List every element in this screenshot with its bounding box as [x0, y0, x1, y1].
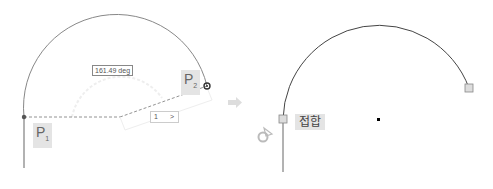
- point-p2-label: P2: [181, 70, 200, 95]
- p1-index: 1: [45, 135, 49, 142]
- p2-index: 2: [193, 82, 197, 89]
- angle-arc: [72, 77, 162, 117]
- p2-letter: P: [184, 71, 193, 87]
- handle-start[interactable]: [279, 115, 287, 123]
- p1-letter: P: [36, 124, 45, 140]
- diagram-canvas: [0, 0, 493, 189]
- radius-input[interactable]: 1 >: [150, 111, 179, 123]
- center-point[interactable]: [377, 118, 380, 121]
- radius-input-value: 1: [154, 113, 158, 120]
- handle-end[interactable]: [465, 84, 473, 92]
- point-p1-label: P1: [33, 123, 52, 148]
- angle-value-label: 161.49 deg: [92, 65, 133, 76]
- right-arrow-icon: [228, 97, 242, 108]
- point-p1-marker[interactable]: [22, 115, 26, 119]
- input-arrow: >: [170, 112, 174, 122]
- tangent-tag: 접합: [295, 114, 325, 130]
- dimension-bracket: [120, 90, 212, 130]
- rotate-cursor-icon: [259, 128, 273, 142]
- right-arc: [283, 25, 469, 119]
